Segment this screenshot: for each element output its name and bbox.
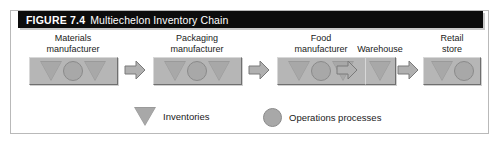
legend-item-operations-processes: Operations processes — [263, 108, 381, 127]
node-box — [365, 57, 396, 85]
legend-label: Operations processes — [289, 112, 381, 123]
node-label: Packaging manufacturer — [170, 31, 223, 54]
node-label-line1: Retail — [440, 33, 463, 44]
figure-title-bar: FIGURE 7.4 Multiechelon Inventory Chain — [18, 11, 483, 28]
operations-circle-icon — [311, 61, 331, 81]
node-box — [153, 57, 242, 85]
node-label-line1: Materials — [46, 33, 99, 44]
node-packaging-manufacturer: Packaging manufacturer — [148, 31, 246, 85]
node-label-line1: Food — [294, 33, 347, 44]
node-label-line1: Packaging — [170, 33, 223, 44]
node-label-line2: store — [440, 44, 463, 55]
figure-frame: FIGURE 7.4 Multiechelon Inventory Chain … — [10, 10, 489, 134]
inventory-triangle-icon — [288, 61, 310, 81]
inventory-triangle-icon — [164, 61, 186, 81]
arrow-2-right-icon — [248, 59, 270, 81]
node-label-line2: manufacturer — [46, 44, 99, 55]
node-label: Warehouse — [357, 31, 403, 54]
node-materials-manufacturer: Materials manufacturer — [24, 31, 122, 85]
node-label-line2: manufacturer — [170, 44, 223, 55]
arrow-1-right-icon — [124, 59, 146, 81]
operations-circle-icon — [454, 61, 474, 81]
node-retail-store: Retail store — [421, 31, 483, 85]
node-label: Materials manufacturer — [46, 31, 99, 54]
operations-circle-icon — [263, 108, 282, 127]
inventory-triangle-icon — [134, 107, 156, 126]
legend-item-inventories: Inventories — [134, 107, 209, 126]
arrow-4-right-icon — [397, 59, 419, 81]
inventory-triangle-icon — [40, 61, 62, 81]
inventory-triangle-icon — [431, 61, 453, 81]
legend-label: Inventories — [163, 111, 209, 122]
supply-chain-diagram: Materials manufacturer Packaging manufac… — [11, 31, 490, 101]
node-label-line1: Warehouse — [357, 44, 403, 55]
operations-circle-icon — [63, 61, 83, 81]
inventory-triangle-icon — [208, 61, 230, 81]
operations-circle-icon — [187, 61, 207, 81]
inventory-triangle-icon — [84, 61, 106, 81]
legend: Inventories Operations processes — [11, 107, 490, 131]
node-label-line2: manufacturer — [294, 44, 347, 55]
node-label: Retail store — [440, 31, 463, 54]
node-box — [423, 57, 481, 85]
node-label: Food manufacturer — [294, 31, 347, 54]
inventory-triangle-icon — [369, 61, 391, 81]
figure-title: Multiechelon Inventory Chain — [90, 14, 228, 26]
node-box — [29, 57, 118, 85]
figure-number: FIGURE 7.4 — [26, 14, 85, 26]
